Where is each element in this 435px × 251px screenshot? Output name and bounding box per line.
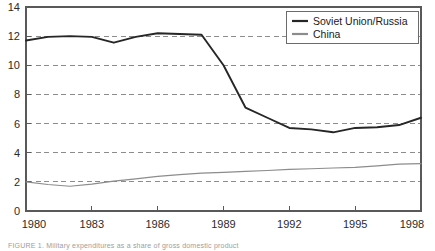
line-chart: 02468101214 1980198319861989199219951998… xyxy=(0,0,435,251)
x-tick-label-1995: 1995 xyxy=(343,218,367,230)
y-tick-label-8: 8 xyxy=(14,88,20,100)
figure-container: 02468101214 1980198319861989199219951998… xyxy=(0,0,435,251)
y-tick-label-12: 12 xyxy=(8,30,20,42)
x-tick-label-1992: 1992 xyxy=(277,218,301,230)
legend-label-china: China xyxy=(313,28,341,40)
y-tick-label-10: 10 xyxy=(8,59,20,71)
chart-legend: Soviet Union/Russia China xyxy=(286,11,418,43)
y-tick-label-0: 0 xyxy=(14,205,20,217)
y-axis-tick-labels: 02468101214 xyxy=(8,1,20,217)
legend-label-soviet-union-russia: Soviet Union/Russia xyxy=(313,15,408,27)
x-tick-label-1998: 1998 xyxy=(400,218,424,230)
figure-caption: FIGURE 1. Military expenditures as a sha… xyxy=(8,241,428,251)
x-tick-label-1983: 1983 xyxy=(80,218,104,230)
y-tick-label-4: 4 xyxy=(14,147,20,159)
x-tick-label-1989: 1989 xyxy=(211,218,235,230)
x-tick-label-1986: 1986 xyxy=(145,218,169,230)
y-tick-label-14: 14 xyxy=(8,1,20,13)
y-tick-label-6: 6 xyxy=(14,118,20,130)
x-tick-label-1980: 1980 xyxy=(22,218,46,230)
y-tick-label-2: 2 xyxy=(14,176,20,188)
x-axis-tick-labels: 1980198319861989199219951998 xyxy=(22,218,424,230)
